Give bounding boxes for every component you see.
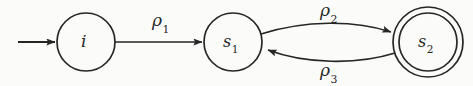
state-label-i: i (81, 33, 86, 54)
transition-label-rho3: ρ3 (320, 62, 337, 83)
state-label-s1: s1 (223, 34, 238, 53)
transition-label-rho2: ρ2 (320, 2, 337, 23)
transition-rho2-arc (261, 23, 391, 34)
transition-label-rho1: ρ1 (152, 12, 169, 33)
transition-rho3-arc (268, 50, 395, 61)
state-machine-diagram: i s1 s2 ρ1 ρ2 ρ3 (0, 0, 473, 86)
state-label-s2: s2 (418, 34, 433, 53)
